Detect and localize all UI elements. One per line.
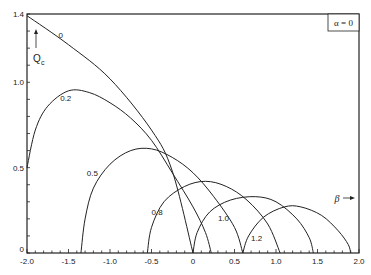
curve-0.2: [27, 90, 211, 253]
x-tick-label: 1.0: [270, 257, 282, 266]
y-tick-label: 0: [20, 245, 25, 254]
curve-1.0: [193, 197, 313, 253]
y-axis-label: Q c: [33, 29, 45, 66]
svg-text:c: c: [41, 59, 45, 66]
curves: [27, 16, 351, 253]
curve-label: 0.8: [152, 208, 164, 217]
svg-text:Q: Q: [33, 53, 41, 64]
x-tick-label: 0: [191, 257, 196, 266]
x-tick-label: -0.5: [145, 257, 159, 266]
curve-0.5: [81, 148, 243, 253]
x-tick-label: -1.5: [62, 257, 76, 266]
curve-labels: 00.20.50.81.01.2: [59, 31, 263, 243]
x-axis-label: β: [334, 193, 355, 204]
curve-label: 0: [59, 31, 64, 40]
x-tick-label: 2.0: [353, 257, 365, 266]
curve-label: 1.2: [251, 234, 263, 243]
x-tick-label: -2.0: [20, 257, 34, 266]
y-tick-label: 1.0: [13, 78, 25, 87]
alpha-annotation: α = 0: [328, 14, 359, 31]
y-tick-label: 0.5: [13, 164, 25, 173]
x-tick-label: -1.0: [103, 257, 117, 266]
curve-label: 0.2: [60, 94, 72, 103]
arrow-up-icon: [34, 29, 38, 34]
arrow-right-icon: [350, 196, 355, 200]
x-tick-label: 0.5: [229, 257, 241, 266]
curve-label: 0.5: [87, 169, 99, 178]
x-tick-label: 1.5: [312, 257, 324, 266]
alpha-label: α = 0: [334, 18, 353, 28]
y-tick-label: 1.4: [13, 10, 25, 19]
curve-0: [27, 16, 193, 253]
chart: -2.0-1.5-1.0-0.500.51.01.52.0 00.51.01.4…: [0, 0, 371, 275]
curve-label: 1.0: [218, 214, 230, 223]
plot-frame: [27, 14, 359, 253]
svg-text:β: β: [334, 193, 340, 204]
